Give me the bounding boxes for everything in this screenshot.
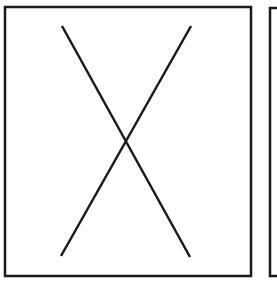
diagram-canvas xyxy=(0,0,277,287)
panel-right-frame xyxy=(270,8,277,276)
panel-left-frame xyxy=(5,7,251,276)
